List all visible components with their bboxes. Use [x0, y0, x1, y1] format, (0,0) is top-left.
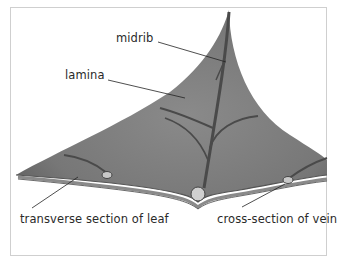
vein-cross-section-right	[283, 177, 293, 184]
midrib-cross-section	[191, 187, 205, 201]
leaf-lamina-shape	[16, 10, 327, 202]
midrib-label: midrib	[116, 31, 154, 45]
transverse-section-label: transverse section of leaf	[20, 212, 169, 226]
vein-cross-section-label: cross-section of vein	[217, 212, 337, 226]
lamina-leader	[108, 80, 185, 98]
lamina-label: lamina	[65, 68, 105, 82]
vein-cross-section-left	[102, 172, 112, 179]
